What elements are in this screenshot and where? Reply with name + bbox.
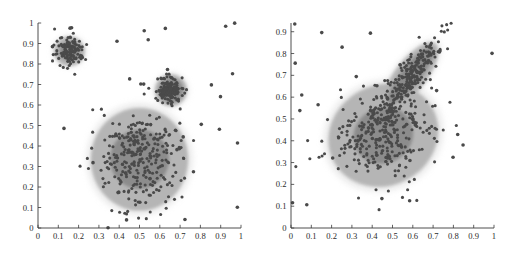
data-point bbox=[133, 161, 136, 164]
data-point bbox=[398, 84, 401, 87]
data-point bbox=[412, 149, 415, 152]
data-point bbox=[157, 189, 160, 192]
y-tick-label: 0.4 bbox=[276, 136, 287, 146]
data-point bbox=[173, 198, 176, 201]
data-point bbox=[367, 113, 370, 116]
data-point bbox=[390, 110, 393, 113]
data-point bbox=[423, 42, 426, 45]
data-point bbox=[143, 171, 146, 174]
data-point bbox=[411, 86, 414, 89]
data-point bbox=[384, 156, 387, 159]
data-point bbox=[418, 36, 421, 39]
data-point bbox=[142, 161, 145, 164]
data-point bbox=[127, 125, 130, 128]
outlier-point bbox=[305, 203, 309, 207]
data-point bbox=[355, 170, 358, 173]
data-point bbox=[129, 138, 132, 141]
x-tick-label: 0.2 bbox=[73, 231, 84, 241]
data-point bbox=[158, 133, 161, 136]
y-tick-label: 0.2 bbox=[276, 179, 287, 189]
data-point bbox=[360, 143, 363, 146]
outlier-point bbox=[380, 197, 384, 201]
x-tick-label: 0 bbox=[36, 231, 40, 241]
data-point bbox=[437, 40, 440, 43]
data-point bbox=[415, 59, 418, 62]
data-point bbox=[343, 144, 346, 147]
data-point bbox=[153, 142, 156, 145]
data-point bbox=[157, 153, 160, 156]
y-tick-label: 0.5 bbox=[23, 121, 34, 131]
data-point bbox=[115, 169, 118, 172]
data-point bbox=[164, 200, 167, 203]
data-point bbox=[162, 77, 165, 80]
data-point bbox=[380, 113, 383, 116]
data-point bbox=[392, 128, 395, 131]
outlier-point bbox=[146, 38, 150, 42]
data-point bbox=[68, 54, 71, 57]
data-point bbox=[387, 140, 390, 143]
data-point bbox=[176, 87, 179, 90]
data-point bbox=[124, 171, 127, 174]
x-tick-label: 0.2 bbox=[326, 231, 337, 241]
data-point bbox=[359, 137, 362, 140]
scatter-panel-left: 00.10.20.30.40.50.60.70.80.9100.10.20.30… bbox=[0, 0, 255, 262]
data-point bbox=[369, 109, 372, 112]
data-point bbox=[79, 165, 82, 168]
data-point bbox=[345, 133, 348, 136]
data-point bbox=[358, 162, 361, 165]
data-point bbox=[392, 101, 395, 104]
data-point bbox=[156, 99, 159, 102]
data-point bbox=[139, 153, 142, 156]
data-point bbox=[338, 154, 341, 157]
data-point bbox=[401, 196, 404, 199]
x-tick-label: 0.9 bbox=[215, 231, 226, 241]
data-point bbox=[86, 157, 89, 160]
data-point bbox=[135, 135, 138, 138]
data-point bbox=[155, 158, 158, 161]
y-tick-label: 0.8 bbox=[23, 59, 34, 69]
data-point bbox=[409, 55, 412, 58]
data-point bbox=[345, 165, 348, 168]
data-point bbox=[171, 96, 174, 99]
outlier-point bbox=[408, 159, 412, 163]
data-point bbox=[174, 171, 177, 174]
data-point bbox=[407, 62, 410, 65]
data-point bbox=[353, 112, 356, 115]
outlier-point bbox=[115, 39, 119, 43]
data-point bbox=[353, 119, 356, 122]
data-point bbox=[156, 149, 159, 152]
data-point bbox=[145, 157, 148, 160]
outlier-point bbox=[174, 128, 178, 132]
data-point bbox=[404, 157, 407, 160]
y-tick-label: 0.1 bbox=[276, 201, 287, 211]
data-point bbox=[118, 123, 121, 126]
data-point bbox=[154, 161, 157, 164]
outlier-point bbox=[181, 135, 185, 139]
data-point bbox=[142, 129, 145, 132]
data-point bbox=[393, 81, 396, 84]
data-point bbox=[79, 54, 82, 57]
data-point bbox=[144, 201, 147, 204]
data-point bbox=[364, 163, 367, 166]
data-point bbox=[127, 191, 130, 194]
data-point bbox=[419, 86, 422, 89]
outlier-point bbox=[375, 153, 379, 157]
data-point bbox=[423, 62, 426, 65]
x-tick-label: 1 bbox=[239, 231, 243, 241]
data-point bbox=[149, 210, 152, 213]
data-point bbox=[177, 100, 180, 103]
data-point bbox=[410, 128, 413, 131]
outlier-point bbox=[128, 77, 132, 81]
data-point bbox=[359, 98, 362, 101]
data-point bbox=[115, 134, 118, 137]
data-point bbox=[404, 145, 407, 148]
data-point bbox=[434, 104, 437, 107]
data-point bbox=[149, 194, 152, 197]
data-point bbox=[107, 167, 110, 170]
data-point bbox=[87, 167, 90, 170]
data-point bbox=[450, 22, 453, 25]
data-point bbox=[383, 103, 386, 106]
data-point bbox=[360, 134, 363, 137]
data-point bbox=[376, 164, 379, 167]
data-point bbox=[139, 185, 142, 188]
